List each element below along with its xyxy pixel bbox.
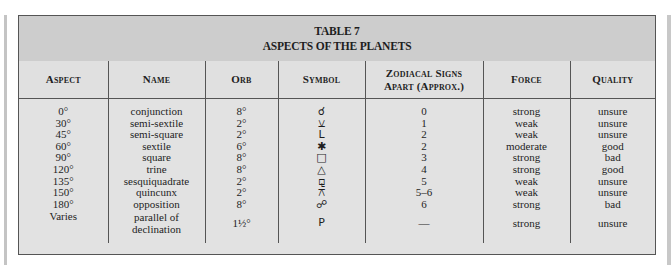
name-value: trine: [109, 164, 205, 176]
column-quality: unsureunsureunsuregoodbadgoodunsureunsur…: [570, 99, 655, 244]
header-zodiacal-signs-apart: Zodiacal Signs Apart (Approx.): [365, 61, 483, 99]
signs-apart-value: 0: [366, 106, 483, 118]
signs-apart-value: 6: [366, 199, 483, 211]
table-number: TABLE 7: [19, 16, 655, 39]
aspect-value: 120°: [19, 164, 108, 176]
orb-value: 1½°: [206, 210, 278, 236]
aspect-value: 0°: [19, 106, 108, 118]
signs-apart-value: 5–6: [366, 187, 483, 199]
force-value: strong: [484, 210, 570, 236]
header-name: Name: [108, 61, 205, 99]
column-name: conjunctionsemi-sextilesemi-squaresextil…: [108, 99, 205, 244]
quality-value: good: [571, 164, 656, 176]
aspect-value: Varies: [19, 210, 108, 237]
aspect-value: 150°: [19, 187, 108, 199]
force-value: strong: [484, 106, 570, 118]
force-value: strong: [484, 199, 570, 211]
signs-apart-value: —: [366, 210, 483, 236]
table-title-band: TABLE 7 ASPECTS OF THE PLANETS: [19, 16, 655, 62]
conjunction-symbol-icon: ☌: [279, 106, 365, 118]
page-edge-left: [4, 15, 7, 265]
header-quality: Quality: [570, 61, 655, 99]
force-value: strong: [484, 164, 570, 176]
aspects-table: TABLE 7 ASPECTS OF THE PLANETS Aspect Na…: [18, 15, 656, 255]
column-signs-apart: 01223455–66—: [365, 99, 483, 244]
column-symbol: ☌⚺L✱□△⚼⚻☍P: [278, 99, 365, 244]
quality-value: unsure: [571, 210, 656, 236]
table-body: 0°30°45°60°90°120°135°150°180°Varies con…: [19, 99, 655, 244]
header-zodiac-line1: Zodiacal Signs: [386, 67, 462, 79]
column-aspect: 0°30°45°60°90°120°135°150°180°Varies: [19, 99, 108, 244]
table-title: ASPECTS OF THE PLANETS: [19, 39, 655, 54]
name-value: opposition: [109, 199, 205, 211]
page-edge-right: [667, 15, 671, 265]
header-zodiac-line2: Apart (Approx.): [384, 80, 464, 92]
quincunx-symbol-icon: ⚻: [279, 187, 365, 199]
orb-value: 8°: [206, 199, 278, 211]
force-value: weak: [484, 187, 570, 199]
opposition-symbol-icon: ☍: [279, 199, 365, 211]
orb-value: 2°: [206, 187, 278, 199]
header-row: Aspect Name Orb Symbol Zodiacal Signs Ap…: [19, 61, 655, 99]
orb-value: 8°: [206, 164, 278, 176]
column-orb: 8°2°2°6°8°8°2°2°8°1½°: [205, 99, 278, 244]
header-force: Force: [483, 61, 570, 99]
quality-value: unsure: [571, 187, 656, 199]
name-value: parallel of declination: [109, 210, 205, 237]
aspects-grid: Aspect Name Orb Symbol Zodiacal Signs Ap…: [19, 61, 655, 243]
trine-symbol-icon: △: [279, 164, 365, 176]
parallel-symbol-icon: P: [279, 210, 365, 236]
name-value: quincunx: [109, 187, 205, 199]
aspect-value: 180°: [19, 199, 108, 211]
header-aspect: Aspect: [19, 61, 108, 99]
header-symbol: Symbol: [278, 61, 365, 99]
column-force: strongweakweakmoderatestrongstrongweakwe…: [483, 99, 570, 244]
quality-value: unsure: [571, 106, 656, 118]
name-value: conjunction: [109, 106, 205, 118]
header-orb: Orb: [205, 61, 278, 99]
orb-value: 8°: [206, 106, 278, 118]
signs-apart-value: 4: [366, 164, 483, 176]
quality-value: bad: [571, 199, 656, 211]
